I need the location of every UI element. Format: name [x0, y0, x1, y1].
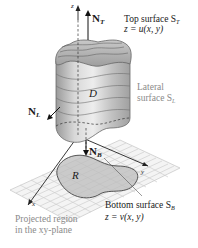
top-surface-annotation: Top surface ST z = u(x, y) — [124, 15, 180, 35]
lateral-surface-annotation: Lateral surface SL — [137, 82, 176, 105]
normal-top-label: NT — [92, 13, 104, 26]
normal-lateral-label: NL — [28, 106, 40, 119]
normal-bottom-label: NB — [89, 146, 102, 159]
solid-label-d: D — [89, 88, 97, 99]
z-axis-label: z — [71, 3, 74, 10]
x-axis-label: x — [32, 201, 35, 208]
region-label-r: R — [72, 170, 79, 181]
bottom-surface-annotation: Bottom surface SB z = v(x, y) — [105, 200, 175, 223]
y-axis-label: y — [141, 169, 144, 176]
projected-region-annotation: Projected region in the xy-plane — [15, 214, 78, 237]
